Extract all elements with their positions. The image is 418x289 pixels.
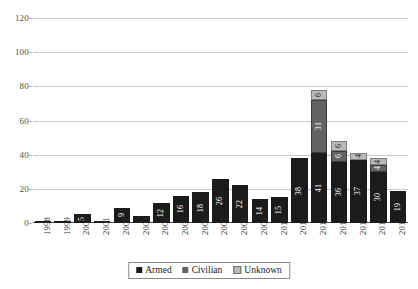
y-axis-tick-mark <box>27 52 32 53</box>
legend-label: Armed <box>145 265 171 275</box>
x-axis-tick-label: 2008 <box>240 217 249 235</box>
x-axis-tick-labels: 1998199920002001200220032004200520062007… <box>33 224 408 258</box>
unknown-swatch-icon <box>233 266 241 274</box>
bar-column <box>33 18 53 223</box>
x-axis-tick-label: 2011 <box>299 217 308 235</box>
bar-column: 38 <box>290 18 310 223</box>
bar-value-label: 6 <box>315 93 323 97</box>
bar-column <box>53 18 73 223</box>
legend-item-civilian[interactable]: Civilian <box>183 265 223 275</box>
bar-column: 41316 <box>309 18 329 223</box>
x-axis-tick-cell: 2011 <box>290 224 310 258</box>
bar-stack: 3044 <box>370 158 387 223</box>
bar-value-label: 37 <box>355 187 363 195</box>
x-axis-tick-cell: 2002 <box>112 224 132 258</box>
civilian-swatch-icon <box>183 267 189 273</box>
bar-column: 3044 <box>368 18 388 223</box>
bar-column: 26 <box>211 18 231 223</box>
x-axis-tick-cell: 2009 <box>250 224 270 258</box>
bar-value-label: 36 <box>335 188 343 196</box>
x-axis-tick-cell: 2000 <box>72 224 92 258</box>
bar-stack: 374 <box>350 153 367 223</box>
bar-column <box>132 18 152 223</box>
bar-stack: 41316 <box>311 90 328 223</box>
bar-column: 15 <box>270 18 290 223</box>
bar-column: 16 <box>171 18 191 223</box>
bar-value-label: 41 <box>315 184 323 192</box>
bar-value-label: 4 <box>374 159 382 163</box>
legend-label: Civilian <box>192 265 223 275</box>
x-axis-tick-cell: 2003 <box>132 224 152 258</box>
x-axis-tick-label: 2016 <box>398 217 407 235</box>
x-axis-tick-label: 2009 <box>260 217 269 235</box>
x-axis-tick-cell: 2015 <box>368 224 388 258</box>
x-axis-tick-label: 2005 <box>181 217 190 235</box>
x-axis-tick-label: 2002 <box>122 217 131 235</box>
bar-value-label: 22 <box>236 200 244 208</box>
x-axis-tick-cell: 2016 <box>388 224 408 258</box>
bar-segment-armed: 38 <box>291 158 308 223</box>
stacked-bar-chart: 591216182622141538413163666374304419 020… <box>0 0 418 289</box>
bar-value-label: 18 <box>197 203 205 211</box>
bar-value-label: 12 <box>157 209 165 217</box>
bar-column: 14 <box>250 18 270 223</box>
bar-segment-armed: 30 <box>370 172 387 223</box>
bar-column: 9 <box>112 18 132 223</box>
bar-column: 5 <box>72 18 92 223</box>
bar-segment-civilian: 31 <box>311 100 328 153</box>
x-axis-tick-cell: 2007 <box>211 224 231 258</box>
x-axis-tick-cell: 2013 <box>329 224 349 258</box>
legend-item-unknown[interactable]: Unknown <box>233 265 281 275</box>
bar-value-label: 4 <box>374 166 382 170</box>
bar-value-label: 14 <box>256 207 264 215</box>
bar-column: 12 <box>151 18 171 223</box>
x-axis-tick-cell: 2010 <box>270 224 290 258</box>
y-axis-tick-mark <box>27 223 32 224</box>
bar-segment-armed: 41 <box>311 153 328 223</box>
x-axis-tick-cell: 2005 <box>171 224 191 258</box>
x-axis-tick-label: 2003 <box>142 217 151 235</box>
bar-value-label: 38 <box>295 186 303 194</box>
x-axis-tick-label: 1998 <box>43 217 52 235</box>
chart-legend: ArmedCivilianUnknown <box>128 262 290 279</box>
x-axis-tick-label: 2010 <box>280 217 289 235</box>
x-axis-tick-label: 2013 <box>339 217 348 235</box>
x-axis-tick-cell: 2014 <box>349 224 369 258</box>
x-axis-tick-cell: 1998 <box>33 224 53 258</box>
x-axis-tick-label: 2007 <box>220 217 229 235</box>
bar-column: 19 <box>388 18 408 223</box>
x-axis-tick-label: 2014 <box>359 217 368 235</box>
y-axis-tick-mark <box>27 18 32 19</box>
bar-segment-unknown: 6 <box>311 90 328 100</box>
bars-group: 591216182622141538413163666374304419 <box>33 18 408 223</box>
x-axis-tick-label: 2004 <box>161 217 170 235</box>
x-axis-tick-cell: 2004 <box>151 224 171 258</box>
x-axis-tick-label: 2006 <box>201 217 210 235</box>
x-axis-tick-label: 1999 <box>63 217 72 235</box>
plot-area: 591216182622141538413163666374304419 <box>33 18 408 223</box>
bar-value-label: 6 <box>335 154 343 158</box>
x-axis-tick-cell: 2006 <box>191 224 211 258</box>
bar-value-label: 6 <box>335 144 343 148</box>
bar-value-label: 16 <box>177 205 185 213</box>
bar-segment-unknown: 4 <box>370 158 387 165</box>
bar-stack: 38 <box>291 158 308 223</box>
legend-label: Unknown <box>244 265 281 275</box>
bar-value-label: 30 <box>374 193 382 201</box>
bar-value-label: 26 <box>216 197 224 205</box>
x-axis-tick-label: 2012 <box>319 217 328 235</box>
bar-value-label: 31 <box>315 122 323 130</box>
bar-value-label: 4 <box>355 154 363 158</box>
x-axis-tick-label: 2015 <box>378 217 387 235</box>
bar-segment-unknown: 6 <box>331 141 348 151</box>
bar-value-label: 19 <box>394 203 402 211</box>
legend-item-armed[interactable]: Armed <box>136 265 171 275</box>
armed-swatch-icon <box>136 267 142 273</box>
bar-column: 22 <box>230 18 250 223</box>
x-axis-tick-cell: 2001 <box>92 224 112 258</box>
bar-column: 18 <box>191 18 211 223</box>
bar-segment-armed: 36 <box>331 162 348 224</box>
x-axis-tick-label: 2000 <box>82 217 91 235</box>
bar-column <box>92 18 112 223</box>
bar-segment-civilian: 4 <box>370 165 387 172</box>
